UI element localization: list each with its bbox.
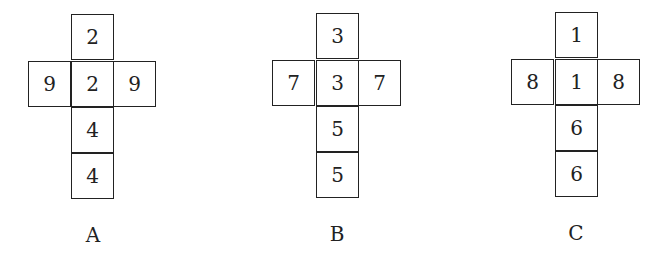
net-c-bottom1-face: 6 bbox=[555, 105, 598, 151]
net-b-bottom1-face: 5 bbox=[316, 106, 359, 152]
net-b-center-face: 3 bbox=[316, 60, 359, 106]
net-c-right-face: 8 bbox=[597, 59, 640, 105]
net-a-top-face: 2 bbox=[71, 14, 114, 60]
net-c-label: C bbox=[556, 221, 596, 245]
net-c-left-face: 8 bbox=[511, 59, 554, 105]
net-b-right-face: 7 bbox=[358, 60, 401, 106]
net-c-center-face: 1 bbox=[555, 59, 598, 105]
net-a-right-face: 9 bbox=[113, 61, 156, 107]
net-b-top-face: 3 bbox=[316, 13, 359, 59]
net-c-bottom2-face: 6 bbox=[555, 151, 598, 197]
net-a-left-face: 9 bbox=[28, 61, 71, 107]
cube-nets-figure: 2 9 2 9 4 4 A 3 7 3 7 5 5 B 1 8 1 8 6 6 … bbox=[0, 0, 664, 257]
net-b-left-face: 7 bbox=[272, 60, 315, 106]
net-a-bottom1-face: 4 bbox=[71, 107, 114, 153]
net-b-label: B bbox=[317, 222, 357, 246]
net-b-bottom2-face: 5 bbox=[316, 152, 359, 198]
net-a-label: A bbox=[73, 223, 113, 247]
net-a-center-face: 2 bbox=[71, 61, 114, 107]
net-c-top-face: 1 bbox=[555, 12, 598, 58]
net-a-bottom2-face: 4 bbox=[71, 153, 114, 199]
